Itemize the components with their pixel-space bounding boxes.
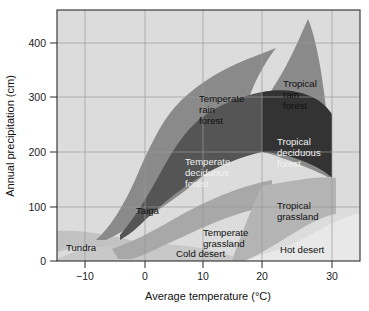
ytick-label-100: 100 — [28, 201, 46, 213]
label-tropical-grassland-line1: Tropical — [277, 200, 311, 211]
xtick-label-30: 30 — [326, 270, 338, 282]
label-temperate-deciduous-line3: forest — [185, 178, 209, 189]
label-tropical-grassland-line2: grassland — [277, 211, 319, 222]
xtick-label-10: 10 — [197, 270, 209, 282]
label-tropical-deciduous-line2: deciduous — [277, 147, 321, 158]
label-temperate-grassland-line1: Temperate — [203, 227, 248, 238]
xtick-label-0: 0 — [142, 270, 148, 282]
label-temperate-deciduous-line2: deciduous — [185, 167, 229, 178]
x-axis-title: Average temperature (°C) — [145, 290, 271, 302]
ytick-label-200: 200 — [28, 146, 46, 158]
label-tropical-deciduous-line3: forest — [277, 158, 301, 169]
label-tropical-rain-line1: Tropical — [283, 78, 317, 89]
ytick-label-0: 0 — [40, 255, 46, 267]
label-cold-desert: Cold desert — [176, 248, 225, 259]
y-axis-title: Annual precipitation (cm) — [4, 75, 16, 197]
label-temperate-deciduous-line1: Temperate — [185, 156, 230, 167]
y-axis-ticks — [50, 43, 57, 261]
xtick-label--10: −10 — [76, 270, 94, 282]
label-temperate-grassland-line2: grassland — [203, 238, 245, 249]
xtick-label-20: 20 — [256, 270, 268, 282]
label-temperate-rain-line1: Temperate — [199, 93, 244, 104]
label-temperate-grassland: Temperate grassland — [203, 227, 248, 249]
ytick-label-400: 400 — [28, 37, 46, 49]
label-tropical-rain-line2: rain — [283, 89, 299, 100]
whittaker-diagram-svg: 400 300 200 100 0 −10 0 10 20 30 Average… — [0, 0, 369, 311]
label-hot-desert: Hot desert — [280, 244, 325, 255]
biome-climate-chart: 400 300 200 100 0 −10 0 10 20 30 Average… — [0, 0, 369, 311]
label-tropical-deciduous-line1: Tropical — [277, 136, 311, 147]
label-taiga: Taiga — [136, 205, 160, 216]
label-tropical-rain-line3: forest — [283, 100, 307, 111]
label-tundra: Tundra — [66, 242, 97, 253]
x-axis-ticks — [85, 261, 332, 268]
label-temperate-rain-line3: forest — [199, 115, 223, 126]
label-temperate-rain-line2: rain — [199, 104, 215, 115]
ytick-label-300: 300 — [28, 91, 46, 103]
